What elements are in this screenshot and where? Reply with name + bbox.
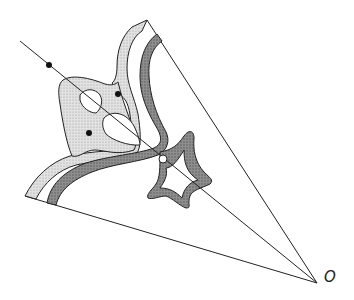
black-dot <box>115 91 121 97</box>
ray-lower-boundary <box>25 196 317 283</box>
point-o-label: O <box>324 268 336 286</box>
black-dot <box>86 130 92 136</box>
open-circle-point <box>159 155 167 163</box>
black-dot <box>46 62 52 68</box>
diagram-canvas <box>0 0 354 300</box>
